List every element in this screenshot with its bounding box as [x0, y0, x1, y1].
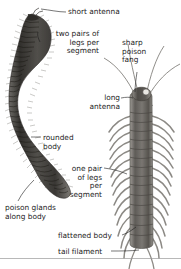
centipede-tail-filaments: [129, 246, 154, 269]
centipede-figure: [104, 44, 180, 269]
centipede-eye: [143, 89, 149, 95]
label-tail-filament: tail filament: [58, 248, 102, 257]
label-sharp-poison-fang: sharp poison fang: [122, 39, 146, 65]
leader-short-antenna: [41, 9, 66, 12]
label-poison-glands: poison glands along body: [5, 204, 56, 221]
label-one-pair-legs: one pair of legs per segment: [56, 165, 102, 199]
figure-canvas: short antenna two pairs of legs per segm…: [0, 0, 181, 269]
label-two-pairs-legs: two pairs of legs per segment: [41, 30, 99, 56]
label-flattened-body: flattened body: [58, 232, 112, 241]
millipede-head: [27, 14, 39, 21]
leader-poison-glands: [18, 180, 34, 201]
label-short-antenna: short antenna: [68, 8, 120, 17]
label-rounded-body: rounded body: [43, 134, 74, 151]
label-long-antenna: long antenna: [84, 94, 120, 111]
